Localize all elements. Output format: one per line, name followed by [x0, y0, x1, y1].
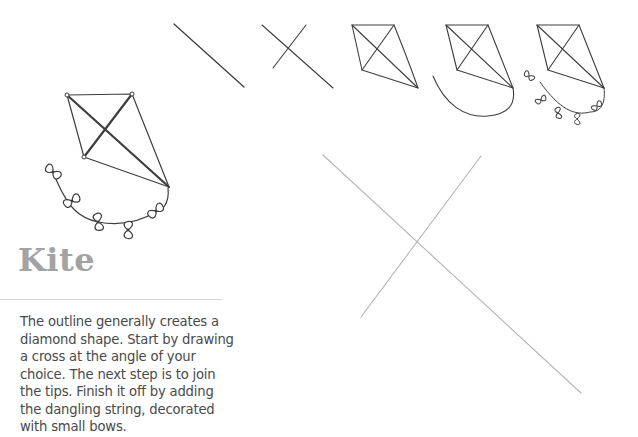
title-divider [0, 299, 222, 300]
step-2-drawing [262, 25, 333, 88]
step-5-drawing [523, 25, 604, 125]
step-4-drawing [433, 25, 514, 116]
page-title: Kite [18, 244, 95, 276]
step-1-drawing [174, 24, 244, 87]
instruction-text: The outline generally creates a diamond … [20, 313, 235, 436]
step-3-drawing [352, 25, 418, 88]
finished-kite-drawing [44, 92, 169, 239]
large-guide-cross [323, 155, 581, 393]
